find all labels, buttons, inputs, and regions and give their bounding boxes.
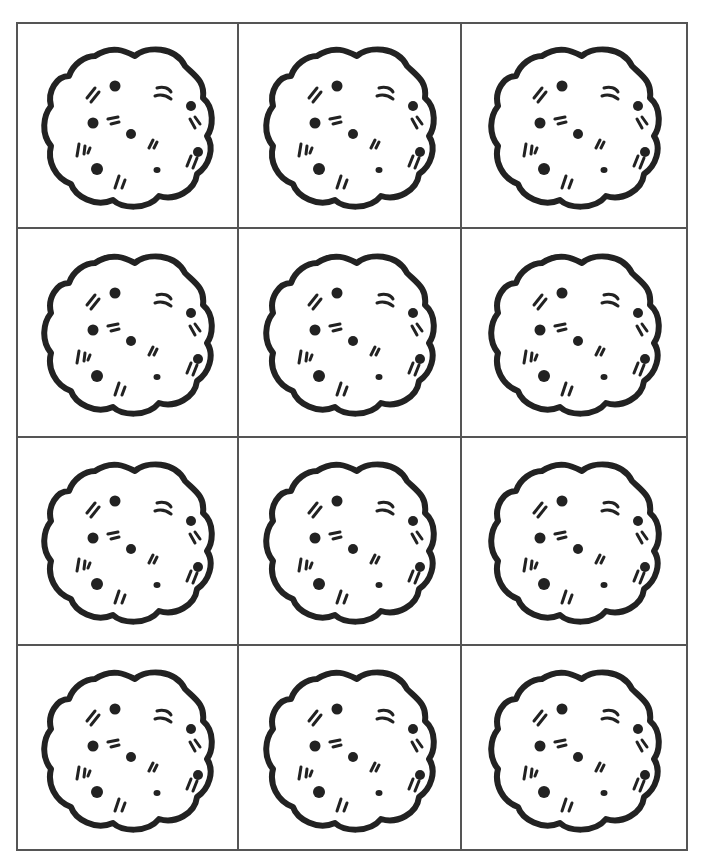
cookie-icon <box>35 243 221 423</box>
cookie-icon <box>482 659 668 839</box>
cookie-card <box>462 229 688 436</box>
cookie-card <box>239 24 460 227</box>
cookie-card <box>239 229 460 436</box>
cookie-card <box>462 438 688 644</box>
cookie-icon <box>257 36 443 216</box>
cookie-icon <box>482 451 668 631</box>
cookie-card <box>462 646 688 851</box>
cookie-icon <box>35 659 221 839</box>
cookie-icon <box>482 243 668 423</box>
cookie-card <box>18 24 237 227</box>
cookie-card <box>18 229 237 436</box>
cookie-icon <box>35 451 221 631</box>
cookie-icon <box>257 451 443 631</box>
cookie-card <box>18 646 237 851</box>
cookie-icon <box>257 659 443 839</box>
cookie-icon <box>257 243 443 423</box>
cookie-card <box>18 438 237 644</box>
cookie-icon <box>482 36 668 216</box>
cookie-icon <box>35 36 221 216</box>
cookie-card <box>462 24 688 227</box>
cookie-card <box>239 646 460 851</box>
cookie-card <box>239 438 460 644</box>
